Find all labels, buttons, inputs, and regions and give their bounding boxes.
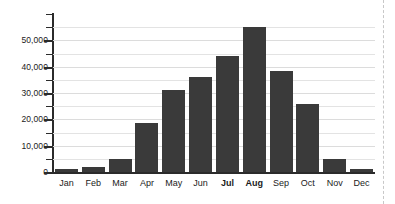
x-axis-tick-label: Nov	[321, 176, 348, 192]
y-axis-tick-label: 20,000	[2, 115, 48, 124]
x-axis-tick-label: Jul	[214, 176, 241, 192]
x-axis-tick-label: Feb	[80, 176, 107, 192]
bar-chart: 010,00020,00030,00040,00050,000 JanFebMa…	[0, 0, 395, 204]
y-axis-tick-label: 30,000	[2, 89, 48, 98]
bar[interactable]	[162, 90, 185, 172]
x-axis-tick-label: Apr	[133, 176, 160, 192]
bar-slot	[241, 14, 268, 172]
bar[interactable]	[109, 159, 132, 172]
bar[interactable]	[296, 104, 319, 172]
bar-slot	[133, 14, 160, 172]
bar-slot	[80, 14, 107, 172]
x-axis-labels: JanFebMarAprMayJunJulAugSepOctNovDec	[53, 176, 375, 192]
bar-slot	[294, 14, 321, 172]
bar-slot	[160, 14, 187, 172]
x-axis-tick-label: Jun	[187, 176, 214, 192]
bar-slot	[107, 14, 134, 172]
bar-slot	[187, 14, 214, 172]
x-axis-tick-label: Aug	[241, 176, 268, 192]
bar[interactable]	[189, 77, 212, 172]
bar-slot	[53, 14, 80, 172]
bar-series	[53, 14, 375, 172]
bar-slot	[268, 14, 295, 172]
bar-slot	[214, 14, 241, 172]
x-axis-tick-label: May	[160, 176, 187, 192]
y-axis-tick-label: 40,000	[2, 63, 48, 72]
plot-area	[53, 14, 375, 172]
x-axis-line	[52, 172, 375, 174]
bar-slot	[348, 14, 375, 172]
x-axis-tick-label: Sep	[268, 176, 295, 192]
x-axis-tick-label: Mar	[107, 176, 134, 192]
x-axis-tick-label: Jan	[53, 176, 80, 192]
y-axis-tick-label: 0	[2, 168, 48, 177]
y-axis-tick-label: 50,000	[2, 36, 48, 45]
bar[interactable]	[135, 123, 158, 172]
x-axis-tick-label: Dec	[348, 176, 375, 192]
bar[interactable]	[323, 159, 346, 172]
bar[interactable]	[270, 71, 293, 172]
x-axis-tick-label: Oct	[294, 176, 321, 192]
bar-slot	[321, 14, 348, 172]
bar[interactable]	[243, 27, 266, 172]
right-edge-dashed-rule	[383, 0, 384, 204]
y-axis-tick-label: 10,000	[2, 142, 48, 151]
y-axis-labels: 010,00020,00030,00040,00050,000	[0, 0, 48, 204]
bar[interactable]	[216, 56, 239, 172]
